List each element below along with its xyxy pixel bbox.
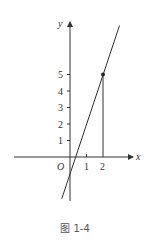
- point-2-5: [101, 73, 105, 77]
- y-tick-label-3: 3: [58, 102, 63, 113]
- y-tick-label-4: 4: [58, 86, 63, 97]
- x-tick-label-1: 1: [84, 161, 89, 172]
- y-tick-label-1: 1: [58, 135, 63, 146]
- y-tick-label-2: 2: [58, 119, 63, 130]
- y-tick-label-5: 5: [58, 69, 63, 80]
- origin-label: O: [57, 161, 64, 172]
- function-graph: y x O 1 2 3 4 5 1 2 图 1-4: [0, 0, 149, 245]
- figure-caption: 图 1-4: [60, 223, 90, 234]
- y-axis-label: y: [57, 18, 63, 29]
- x-tick-label-2: 2: [100, 161, 105, 172]
- x-axis-label: x: [135, 151, 141, 162]
